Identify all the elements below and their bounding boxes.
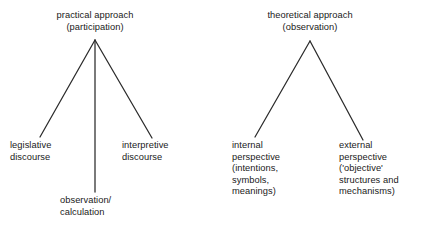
external-perspective-leaf: external perspective ('objective' struct… [339, 140, 432, 198]
edge-theoretical-to-external [310, 41, 363, 140]
internal-perspective-leaf: internal perspective (intentions, symbol… [232, 140, 328, 198]
edge-theoretical-to-internal [255, 41, 310, 137]
practical-approach-root: practical approach (participation) [26, 10, 164, 33]
interpretive-discourse-leaf: interpretive discourse [122, 140, 214, 163]
diagram-canvas: practical approach (participation) legis… [0, 0, 432, 233]
edge-practical-to-legislative [40, 40, 95, 137]
edge-practical-to-interpretive [95, 40, 152, 138]
theoretical-approach-root: theoretical approach (observation) [239, 10, 381, 33]
legislative-discourse-leaf: legislative discourse [10, 140, 100, 163]
observation-calculation-leaf: observation/ calculation [60, 195, 160, 218]
